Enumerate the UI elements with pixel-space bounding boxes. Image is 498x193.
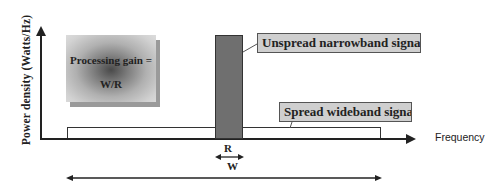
r-dimension-label: R	[224, 142, 232, 154]
narrowband-callout: Unspread narrowband signal	[257, 33, 421, 53]
wideband-callout: Spread wideband signal	[279, 102, 412, 122]
wideband-leader-line	[290, 122, 292, 128]
w-dimension-arrow-icon	[66, 175, 382, 181]
w-dimension-label: W	[227, 160, 238, 172]
annotation-lines	[0, 0, 498, 193]
narrowband-leader-line	[243, 44, 257, 52]
